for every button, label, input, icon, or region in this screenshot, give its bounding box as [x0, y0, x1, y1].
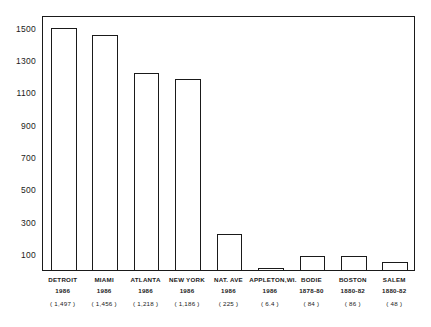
x-axis-category-value: ( 225 ) [208, 298, 249, 309]
x-axis-label-group: ATLANTA1986( 1,218 ) [125, 274, 166, 309]
x-axis-category-year: 1878-80 [291, 285, 332, 296]
y-axis-tick-label: 1300 [0, 56, 36, 66]
x-axis-category-name: ATLANTA [125, 274, 166, 285]
bar-new-york[interactable] [175, 79, 201, 270]
x-axis-label-group: MIAMI1986( 1,456 ) [83, 274, 124, 309]
x-axis-category-value: ( 6.4 ) [249, 298, 290, 309]
x-axis: DETROIT1986( 1,497 )MIAMI1986( 1,456 )AT… [42, 274, 415, 324]
x-axis-category-name: BOSTON [332, 274, 373, 285]
x-axis-category-year: 1986 [125, 285, 166, 296]
bar-detroit[interactable] [51, 28, 77, 270]
x-axis-category-year: 1986 [83, 285, 124, 296]
x-axis-category-value: ( 1,218 ) [125, 298, 166, 309]
x-axis-category-name: BODIE [291, 274, 332, 285]
x-axis-label-group: DETROIT1986( 1,497 ) [42, 274, 83, 309]
x-axis-category-year: 1986 [42, 285, 83, 296]
bars-container [43, 17, 414, 270]
x-axis-category-value: ( 48 ) [374, 298, 415, 309]
y-axis-tick-label: 300 [0, 218, 36, 228]
chart-plot-frame [42, 16, 415, 271]
x-axis-category-year: 1986 [208, 285, 249, 296]
x-axis-label-group: BODIE1878-80( 84 ) [291, 274, 332, 309]
y-axis-tick-label: 1100 [0, 88, 36, 98]
x-axis-category-year: 1880-82 [332, 285, 373, 296]
x-axis-label-group: NAT. AVE1986( 225 ) [208, 274, 249, 309]
x-axis-label-group: NEW YORK1986( 1,186 ) [166, 274, 207, 309]
y-axis-tick-label: 100 [0, 250, 36, 260]
y-axis: 100300500700900110013001500 [0, 16, 40, 271]
x-axis-label-group: BOSTON1880-82( 86 ) [332, 274, 373, 309]
x-axis-category-value: ( 1,186 ) [166, 298, 207, 309]
bar-bodie[interactable] [300, 256, 326, 270]
x-axis-category-value: ( 84 ) [291, 298, 332, 309]
y-axis-tick-label: 1500 [0, 24, 36, 34]
x-axis-category-value: ( 86 ) [332, 298, 373, 309]
x-axis-category-name: APPLETON,WI. [249, 274, 290, 285]
bar-boston[interactable] [341, 256, 367, 270]
x-axis-category-value: ( 1,456 ) [83, 298, 124, 309]
bar-salem[interactable] [382, 262, 408, 270]
bar-appleton-wi[interactable] [258, 268, 284, 270]
bar-nat-ave[interactable] [217, 234, 243, 270]
x-axis-category-year: 1986 [166, 285, 207, 296]
y-axis-tick-label: 500 [0, 185, 36, 195]
x-axis-category-name: SALEM [374, 274, 415, 285]
x-axis-category-year: 1880-82 [374, 285, 415, 296]
x-axis-category-name: NAT. AVE [208, 274, 249, 285]
x-axis-category-value: ( 1,497 ) [42, 298, 83, 309]
x-axis-category-name: DETROIT [42, 274, 83, 285]
bar-miami[interactable] [92, 35, 118, 270]
y-axis-tick-label: 900 [0, 121, 36, 131]
bar-atlanta[interactable] [134, 73, 160, 270]
x-axis-category-name: MIAMI [83, 274, 124, 285]
y-axis-tick-label: 700 [0, 153, 36, 163]
x-axis-label-group: SALEM1880-82( 48 ) [374, 274, 415, 309]
x-axis-label-group: APPLETON,WI.1986( 6.4 ) [249, 274, 290, 309]
x-axis-category-year: 1986 [249, 285, 290, 296]
x-axis-category-name: NEW YORK [166, 274, 207, 285]
chart-screenshot: 100300500700900110013001500 DETROIT1986(… [0, 0, 431, 327]
